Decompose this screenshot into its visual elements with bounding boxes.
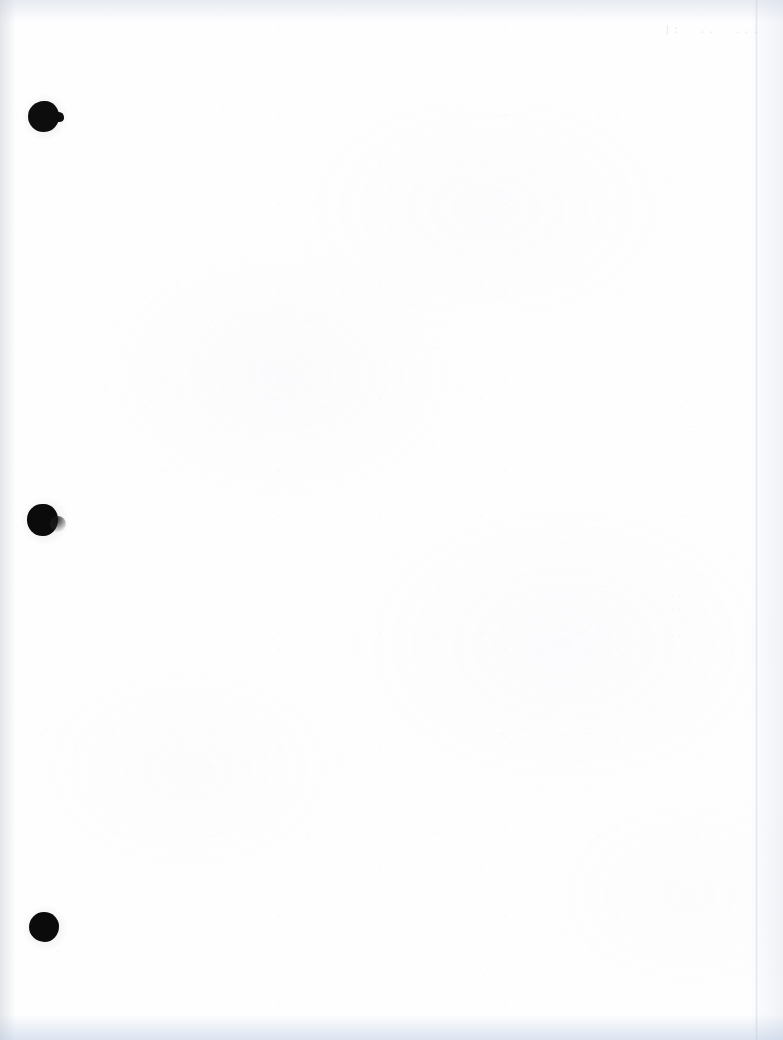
scan-shadow-bottom (0, 1014, 783, 1040)
paper-speckle-texture (0, 0, 783, 1040)
scan-shadow-left (0, 0, 16, 1040)
page-edge-line (755, 0, 758, 1040)
scan-shadow-top (0, 0, 783, 22)
punch-hole-bottom (29, 912, 59, 942)
punch-hole-top-nib (53, 112, 64, 122)
scanned-page: |: .. ... . . . . .. . . . . .. . . . . … (0, 0, 783, 1040)
